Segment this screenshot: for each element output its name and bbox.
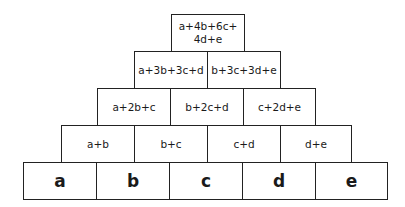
cell-label: b+3c+3d+e — [211, 64, 276, 77]
pyramid-cell-base-b: b — [96, 162, 170, 200]
pyramid-cell-l3-2: c+2d+e — [243, 88, 316, 126]
cell-label: b — [127, 171, 139, 191]
pyramid-cell-l2-2: c+d — [207, 125, 281, 163]
top-cell-line1: a+4b+6c+ — [179, 20, 238, 33]
cell-label: b+c — [160, 138, 181, 151]
pyramid-cell-l2-3: d+e — [280, 125, 352, 163]
pyramid-cell-l2-1: b+c — [134, 125, 208, 163]
pyramid-cell-l4-0: a+3b+3c+d — [134, 51, 208, 89]
cell-label: d+e — [305, 138, 327, 151]
pyramid-cell-l3-1: b+2c+d — [170, 88, 244, 126]
cell-label: b+2c+d — [185, 101, 228, 114]
cell-label: a+2b+c — [112, 101, 155, 114]
top-cell-line2: 4d+e — [194, 33, 223, 46]
cell-label: a+3b+3c+d — [138, 64, 203, 77]
pyramid-cell-base-c: c — [169, 162, 243, 200]
pyramid-cell-base-d: d — [242, 162, 316, 200]
cell-label: a — [54, 171, 65, 191]
pyramid-cell-l2-0: a+b — [61, 125, 135, 163]
cell-label: c+d — [233, 138, 254, 151]
pyramid-cell-l4-1: b+3c+3d+e — [207, 51, 281, 89]
cell-label: c+2d+e — [258, 101, 301, 114]
pyramid-cell-base-a: a — [23, 162, 97, 200]
cell-label: d — [273, 171, 285, 191]
cell-label: a+b — [87, 138, 109, 151]
cell-label: e — [346, 171, 358, 191]
pyramid-cell-base-e: e — [315, 162, 388, 200]
pyramid-cell-top: a+4b+6c+ 4d+e — [171, 14, 245, 52]
cell-label: c — [201, 171, 211, 191]
pyramid-cell-l3-0: a+2b+c — [97, 88, 171, 126]
